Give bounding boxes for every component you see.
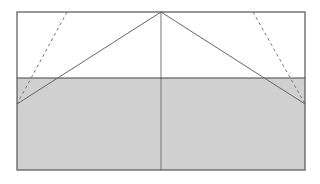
geometry-diagram (0, 0, 320, 184)
